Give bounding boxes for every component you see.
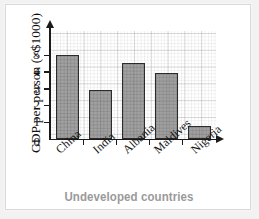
y-tick-4 xyxy=(44,71,49,72)
x-tick-4 xyxy=(182,140,183,145)
y-axis-title: GDP per person (×$1000) xyxy=(28,8,44,158)
chart-card: 5 4 3 2 1 0 China India Albania Maldives… xyxy=(5,4,251,210)
y-tick-2 xyxy=(44,105,49,106)
bar-china[interactable] xyxy=(56,55,79,139)
y-axis-line xyxy=(49,27,51,140)
y-tick-5 xyxy=(44,55,49,56)
y-axis-arrowhead xyxy=(46,20,54,28)
x-axis-title: Undeveloped countries xyxy=(16,190,242,204)
y-tick-3 xyxy=(44,88,49,89)
y-tick-1 xyxy=(44,122,49,123)
x-tick-3 xyxy=(149,140,150,145)
x-tick-1 xyxy=(83,140,84,145)
